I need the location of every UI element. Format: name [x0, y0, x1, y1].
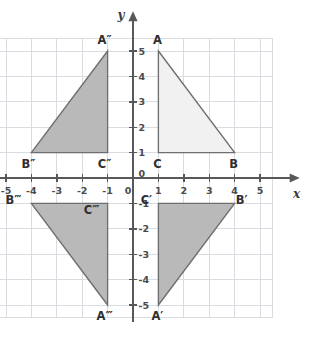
vertex-label: A: [153, 33, 162, 47]
vertex-label: A‴: [97, 309, 113, 323]
y-tick-label: -5: [139, 300, 150, 311]
vertex-label: B′: [236, 193, 248, 207]
y-tick-label: 0: [139, 168, 146, 179]
vertex-label: C: [153, 157, 161, 171]
vertex-label: C′: [141, 193, 152, 207]
y-tick-label: 4: [139, 71, 146, 82]
x-tick-label: 1: [155, 185, 162, 196]
y-tick-label: 2: [139, 122, 146, 133]
vertex-label: A″: [98, 33, 112, 47]
x-tick-label: -4: [26, 185, 37, 196]
x-tick-label: -3: [52, 185, 63, 196]
y-tick-label: -2: [139, 223, 150, 234]
y-tick-label: 3: [139, 96, 146, 107]
x-axis-arrowhead: [290, 173, 300, 182]
x-tick-label: -2: [77, 185, 88, 196]
vertex-label: B: [229, 157, 238, 171]
y-tick-label: -4: [139, 274, 150, 285]
y-tick-label: -3: [139, 249, 150, 260]
x-tick-label: 0: [125, 185, 132, 196]
y-axis-arrowhead: [128, 11, 137, 21]
vertex-label: C″: [98, 157, 112, 171]
vertex-label: C‴: [84, 203, 100, 217]
x-tick-label: 3: [206, 185, 213, 196]
x-axis-label: x: [292, 187, 301, 201]
y-tick-label: 5: [139, 46, 146, 57]
vertex-label: B‴: [5, 193, 21, 207]
axes-layer: [0, 11, 300, 321]
y-tick-label: 1: [139, 147, 146, 158]
x-tick-label: -1: [102, 185, 113, 196]
y-axis-label: y: [117, 8, 126, 22]
vertex-label: A′: [151, 309, 163, 323]
vertex-label: B″: [21, 157, 35, 171]
coordinate-plane-figure: -5-4-3-2-1012345-5-4-3-2-1012345 ABCA′B′…: [0, 0, 314, 337]
x-tick-label: 2: [180, 185, 187, 196]
x-tick-label: 5: [257, 185, 264, 196]
coordinate-plane-svg: -5-4-3-2-1012345-5-4-3-2-1012345 ABCA′B′…: [0, 0, 314, 337]
